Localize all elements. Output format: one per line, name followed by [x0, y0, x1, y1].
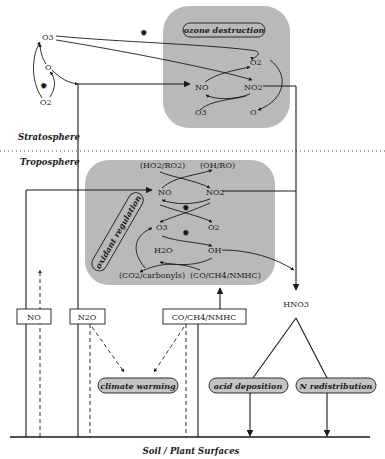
- od-no2: NO2: [244, 83, 263, 92]
- stratosphere-label: Stratosphere: [18, 132, 80, 142]
- svg-text:N2O: N2O: [78, 313, 97, 322]
- svg-text:NO: NO: [27, 313, 41, 322]
- species-o: O: [45, 63, 52, 72]
- or-co-ch4-nmhc: (CO/CH4/NMHC): [190, 271, 261, 280]
- or-no2: NO2: [206, 188, 225, 197]
- hno3-label: HNO3: [283, 300, 309, 309]
- ozone-destruction-title: ozone destruction: [184, 25, 265, 35]
- nitrogen-cycle-diagram: Stratosphere Troposphere O3 O O2 ✹ ✹ ozo…: [0, 0, 385, 459]
- svg-text:CO/CH4/NMHC: CO/CH4/NMHC: [172, 313, 237, 322]
- surface-label: Soil / Plant Surfaces: [143, 446, 240, 456]
- or-ho2-ro2: (HO2/RO2): [140, 161, 185, 170]
- or-o3: O3: [156, 223, 168, 232]
- od-o2: O2: [250, 58, 262, 67]
- or-no: NO: [158, 188, 172, 197]
- or-co2-carbonyls: (CO2/carbonyls): [119, 271, 185, 280]
- svg-text:acid deposition: acid deposition: [214, 381, 283, 391]
- od-o: O: [250, 108, 257, 117]
- or-oh: OH: [208, 246, 222, 255]
- svg-text:N redistribution: N redistribution: [299, 381, 373, 391]
- svg-text:climate warming: climate warming: [100, 381, 176, 391]
- or-h2o: H2O: [154, 246, 173, 255]
- species-o2: O2: [40, 98, 52, 107]
- sunlight-icon: ✹: [40, 81, 48, 91]
- species-o3: O3: [42, 33, 54, 42]
- sunlight-icon: ✹: [182, 228, 190, 238]
- or-o2: O2: [208, 223, 220, 232]
- troposphere-label: Troposphere: [20, 157, 80, 167]
- sunlight-icon: ✹: [140, 28, 148, 38]
- od-no: NO: [195, 83, 209, 92]
- or-oh-ro: (OH/RO): [200, 161, 235, 170]
